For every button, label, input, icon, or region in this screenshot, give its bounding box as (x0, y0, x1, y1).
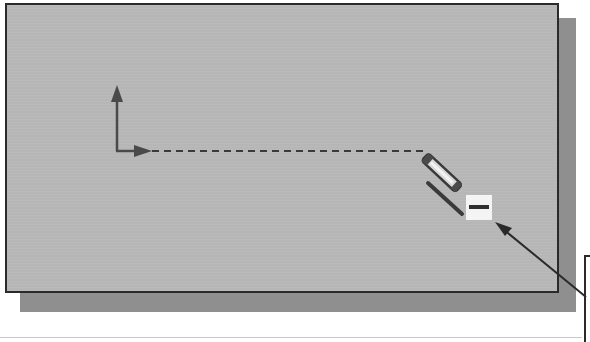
callout-bracket (585, 255, 590, 342)
y-axis-arrow-icon (111, 85, 123, 151)
line-tool-icon (466, 195, 492, 220)
leader-arrow-icon (495, 222, 586, 297)
x-axis-arrow-icon (116, 145, 152, 157)
pencil-icon (422, 153, 462, 192)
